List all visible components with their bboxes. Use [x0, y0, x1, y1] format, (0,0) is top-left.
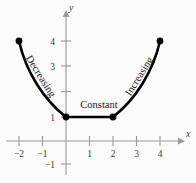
y-tick-label-4: 4 — [50, 37, 55, 47]
x-tick-label-neg2: −2 — [14, 149, 24, 159]
y-tick-label-3: 3 — [50, 62, 55, 72]
x-axis-label: x — [185, 129, 191, 139]
endpoint-dot-flat-end — [110, 114, 117, 121]
constant-label: Constant — [80, 99, 117, 110]
x-tick-label-neg1: −1 — [37, 149, 47, 159]
increasing-label: Increasing — [123, 54, 156, 98]
endpoint-dot-right — [157, 38, 164, 45]
endpoint-dot-origin-flat-start — [63, 114, 70, 121]
y-axis-label: y — [68, 3, 74, 13]
x-tick-label-3: 3 — [134, 149, 139, 159]
x-tick-label-1: 1 — [87, 149, 92, 159]
y-tick-label-1: 1 — [50, 113, 55, 123]
x-tick-label-2: 2 — [111, 149, 116, 159]
endpoint-dot-left — [16, 38, 23, 45]
x-axis-arrow — [178, 138, 185, 145]
graph-figure: −2 −1 1 2 3 4 4 3 1 −1 x y Decreasing Co… — [0, 0, 196, 183]
x-tick-label-4: 4 — [158, 149, 163, 159]
graph-canvas: −2 −1 1 2 3 4 4 3 1 −1 x y Decreasing Co… — [0, 0, 196, 183]
y-tick-label-neg1: −1 — [45, 160, 55, 170]
